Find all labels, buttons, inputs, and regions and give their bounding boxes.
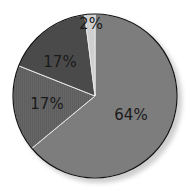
slice-label: 17%: [43, 53, 76, 71]
pie-chart: 64%17%17%2%: [0, 0, 190, 191]
slice-label: 64%: [114, 106, 147, 124]
slice-label: 17%: [30, 95, 63, 113]
slice-label: 2%: [79, 15, 103, 33]
